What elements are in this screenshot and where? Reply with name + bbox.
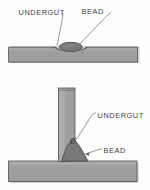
weld-diagram-figure: UNDERGUT BEAD [0, 0, 150, 190]
bottom-undercut-label: UNDERGUT [98, 111, 144, 120]
bottom-bead-arrowhead [86, 152, 90, 156]
upright-plate-highlight [59, 89, 64, 161]
top-bead-label: BEAD [82, 7, 104, 16]
butt-weld-diagram: UNDERGUT BEAD [9, 7, 140, 63]
top-undercut-leader [57, 13, 63, 45]
tee-fillet-weld-diagram: UNDERGUT BEAD [9, 88, 144, 183]
top-bead-leader [80, 13, 111, 44]
bottom-undercut-leader [75, 113, 96, 140]
diagram-canvas: UNDERGUT BEAD [0, 0, 150, 190]
base-plate-highlight [9, 162, 136, 165]
top-undercut-label: UNDERGUT [19, 8, 65, 17]
top-weld-bead-highlight [63, 43, 75, 47]
bottom-bead-label: BEAD [104, 146, 126, 155]
